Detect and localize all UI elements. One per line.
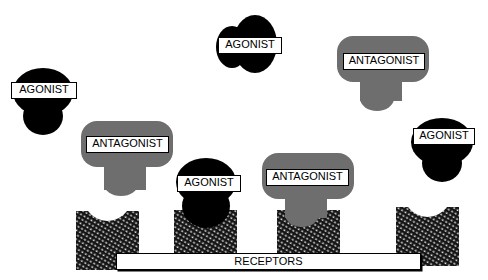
agonist-label-top: AGONIST: [218, 37, 282, 54]
agonist-label-bound: AGONIST: [177, 175, 241, 192]
antagonist-label-left: ANTAGONIST: [86, 136, 169, 153]
agonist-label-left: AGONIST: [11, 82, 77, 99]
antagonist-label-top-right: ANTAGONIST: [343, 53, 425, 70]
antagonist-molecule-bound: [262, 153, 354, 227]
antagonist-molecule-left: [81, 121, 173, 196]
receptor-binding-diagram: AGONIST AGONIST ANTAGONIST ANTAGONIST AG…: [0, 0, 488, 280]
antagonist-label-bound: ANTAGONIST: [266, 169, 349, 186]
agonist-label-right: AGONIST: [413, 128, 475, 145]
agonist-molecule-left: [13, 68, 73, 135]
antagonist-molecule-top-right: [337, 36, 429, 111]
receptors-bar-label: RECEPTORS: [116, 253, 421, 270]
